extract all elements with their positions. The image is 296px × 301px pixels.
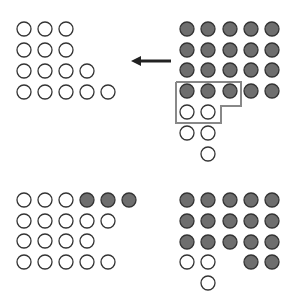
filled-circle — [244, 193, 258, 207]
filled-circle — [201, 193, 215, 207]
bottom-right-result-panel — [180, 193, 279, 290]
empty-circle — [80, 64, 94, 78]
top-left-after-panel — [17, 22, 115, 99]
filled-circle — [180, 43, 194, 57]
filled-circle — [201, 43, 215, 57]
empty-circle — [59, 43, 73, 57]
empty-circle — [59, 255, 73, 269]
empty-circle — [38, 214, 52, 228]
empty-circle — [59, 193, 73, 207]
empty-circle — [80, 214, 94, 228]
filled-circle — [180, 63, 194, 77]
filled-circle — [80, 193, 94, 207]
bottom-left-result-panel — [17, 193, 136, 269]
empty-circle — [201, 255, 215, 269]
top-right-before-panel — [180, 22, 279, 161]
empty-circle — [38, 193, 52, 207]
empty-circle — [59, 64, 73, 78]
empty-circle — [201, 147, 215, 161]
empty-circle — [180, 126, 194, 140]
filled-circle — [244, 214, 258, 228]
empty-circle — [80, 85, 94, 99]
filled-circle — [244, 235, 258, 249]
filled-circle — [223, 84, 237, 98]
empty-circle — [38, 22, 52, 36]
filled-circle — [201, 235, 215, 249]
filled-circle — [265, 235, 279, 249]
empty-circle — [17, 43, 31, 57]
filled-circle — [223, 214, 237, 228]
empty-circle — [59, 234, 73, 248]
empty-circle — [17, 22, 31, 36]
filled-circle — [244, 84, 258, 98]
filled-circle — [180, 84, 194, 98]
filled-circle — [180, 214, 194, 228]
empty-circle — [38, 234, 52, 248]
filled-circle — [223, 63, 237, 77]
empty-circle — [59, 214, 73, 228]
filled-circle — [244, 63, 258, 77]
empty-circle — [80, 255, 94, 269]
filled-circle — [201, 214, 215, 228]
filled-circle — [244, 22, 258, 36]
empty-circle — [17, 85, 31, 99]
filled-circle — [265, 84, 279, 98]
filled-circle — [265, 255, 279, 269]
empty-circle — [59, 85, 73, 99]
empty-circle — [17, 234, 31, 248]
empty-circle — [180, 105, 194, 119]
empty-circle — [38, 255, 52, 269]
filled-circle — [201, 84, 215, 98]
empty-circle — [38, 43, 52, 57]
arrow-left-icon — [131, 56, 171, 66]
empty-circle — [80, 234, 94, 248]
empty-circle — [101, 85, 115, 99]
filled-circle — [180, 22, 194, 36]
filled-circle — [201, 22, 215, 36]
empty-circle — [59, 22, 73, 36]
filled-circle — [265, 22, 279, 36]
filled-circle — [180, 193, 194, 207]
empty-circle — [17, 255, 31, 269]
filled-circle — [201, 63, 215, 77]
filled-circle — [265, 63, 279, 77]
filled-circle — [244, 43, 258, 57]
filled-circle — [265, 43, 279, 57]
empty-circle — [101, 214, 115, 228]
filled-circle — [101, 193, 115, 207]
filled-circle — [265, 193, 279, 207]
filled-circle — [223, 235, 237, 249]
empty-circle — [38, 64, 52, 78]
filled-circle — [265, 214, 279, 228]
filled-circle — [223, 193, 237, 207]
empty-circle — [17, 64, 31, 78]
empty-circle — [201, 276, 215, 290]
filled-circle — [223, 22, 237, 36]
empty-circle — [180, 255, 194, 269]
empty-circle — [201, 105, 215, 119]
circle-transfer-diagram — [0, 0, 296, 301]
filled-circle — [180, 235, 194, 249]
filled-circle — [244, 255, 258, 269]
empty-circle — [201, 126, 215, 140]
filled-circle — [122, 193, 136, 207]
filled-circle — [223, 43, 237, 57]
empty-circle — [17, 214, 31, 228]
empty-circle — [38, 85, 52, 99]
empty-circle — [101, 255, 115, 269]
empty-circle — [17, 193, 31, 207]
